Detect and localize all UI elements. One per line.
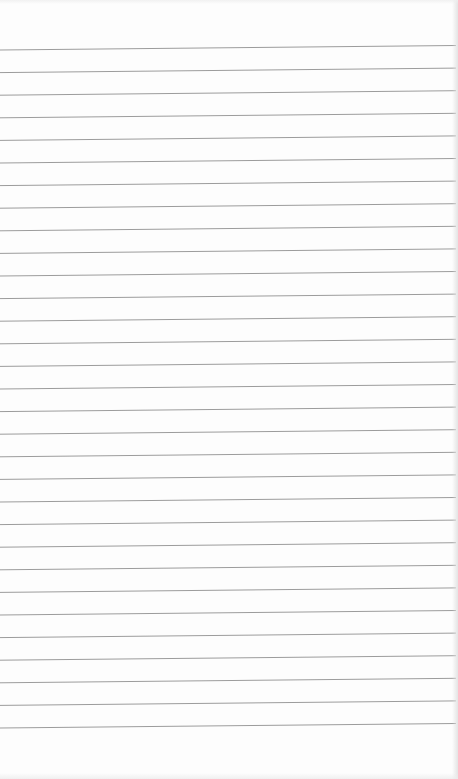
- ruled-lines: [0, 0, 458, 779]
- ruled-line: [0, 91, 456, 96]
- ruled-line: [0, 294, 456, 299]
- ruled-line: [0, 204, 456, 209]
- lined-paper-sheet: [0, 0, 458, 779]
- ruled-line: [0, 678, 456, 683]
- ruled-line: [0, 159, 456, 164]
- ruled-line: [0, 249, 456, 254]
- ruled-line: [0, 181, 456, 186]
- ruled-line: [0, 385, 456, 390]
- ruled-line: [0, 565, 456, 570]
- ruled-line: [0, 724, 456, 729]
- ruled-line: [0, 543, 456, 548]
- ruled-line: [0, 46, 456, 51]
- ruled-line: [0, 452, 456, 457]
- ruled-line: [0, 475, 456, 480]
- ruled-line: [0, 633, 456, 638]
- paper-bottom-edge-shadow: [0, 773, 458, 779]
- paper-right-edge-shadow: [452, 0, 458, 779]
- ruled-line: [0, 339, 456, 344]
- paper-top-edge-shadow: [0, 0, 458, 4]
- ruled-line: [0, 701, 456, 706]
- ruled-line: [0, 317, 456, 322]
- ruled-line: [0, 407, 456, 412]
- ruled-line: [0, 588, 456, 593]
- ruled-line: [0, 113, 456, 118]
- ruled-line: [0, 362, 456, 367]
- ruled-line: [0, 68, 456, 73]
- ruled-line: [0, 498, 456, 503]
- ruled-line: [0, 656, 456, 661]
- ruled-line: [0, 272, 456, 277]
- ruled-line: [0, 430, 456, 435]
- ruled-line: [0, 520, 456, 525]
- ruled-line: [0, 136, 456, 141]
- ruled-line: [0, 611, 456, 616]
- ruled-line: [0, 226, 456, 231]
